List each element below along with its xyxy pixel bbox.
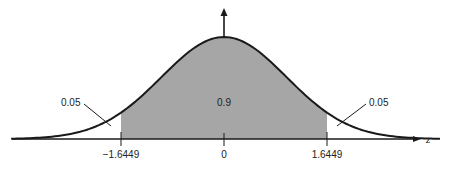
- left-tail-label: 0.05: [61, 97, 81, 108]
- center-area-label: 0.9: [217, 97, 231, 108]
- tick-label-right: 1.6449: [312, 149, 343, 160]
- tick-label-left: −1.6449: [103, 149, 140, 160]
- x-axis-label: z: [425, 133, 431, 145]
- normal-distribution-chart: z −1.6449 0 1.6449 0.9 0.05 0.05: [0, 0, 457, 169]
- right-tail-leader: [337, 104, 366, 126]
- x-axis-arrow-icon: [413, 136, 421, 142]
- y-axis-arrow-icon: [221, 8, 228, 16]
- left-tail-leader: [84, 104, 111, 126]
- right-tail-label: 0.05: [369, 97, 389, 108]
- shaded-central-area: [121, 37, 327, 139]
- tick-label-center: 0: [221, 149, 227, 160]
